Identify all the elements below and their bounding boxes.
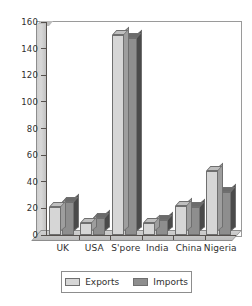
bar-chart: 020406080100120140160 UKUSAS'poreIndiaCh… [0,0,252,306]
bar-front-face [112,35,124,235]
legend-swatch-exports [65,278,80,286]
bar-side-face [124,27,129,231]
legend-item-imports: Imports [133,277,188,287]
chart-legend: Exports Imports [61,271,192,293]
bar-side-face [137,30,142,231]
bar-front-face [175,206,187,235]
legend-label-exports: Exports [85,277,119,287]
legend-label-imports: Imports [153,277,188,287]
bar-china-exports [175,206,187,235]
bars-layer [0,0,252,306]
bar-side-face [218,163,223,231]
legend-swatch-imports [133,278,148,286]
bar-front-face [143,223,155,235]
bar-front-face [206,171,218,235]
bar-spore-exports [112,35,124,235]
bar-usa-exports [80,223,92,235]
bar-nigeria-exports [206,171,218,235]
bar-india-exports [143,223,155,235]
bar-front-face [49,207,61,235]
legend-item-exports: Exports [65,277,119,287]
bar-side-face [231,184,236,231]
bar-uk-exports [49,207,61,235]
bar-front-face [80,223,92,235]
